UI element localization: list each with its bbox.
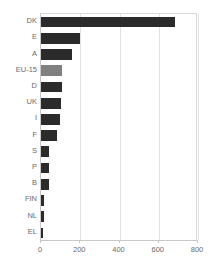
- x-tick-mark: [119, 240, 120, 243]
- y-tick-label: DK: [0, 17, 37, 25]
- y-axis-labels: DKEAEU-15DUKIFSPBFINNLEL: [0, 13, 37, 240]
- y-tick-label: P: [0, 163, 37, 171]
- y-tick-label: E: [0, 33, 37, 41]
- x-tick-mark: [197, 240, 198, 243]
- bar-el: [41, 228, 43, 239]
- y-tick-label: FIN: [0, 195, 37, 203]
- bar-e: [41, 33, 80, 44]
- x-tick-label: 800: [182, 245, 212, 254]
- bar-b: [41, 179, 49, 190]
- y-tick-label: NL: [0, 212, 37, 220]
- y-tick-label: EL: [0, 228, 37, 236]
- bar-f: [41, 130, 57, 141]
- gridline: [198, 14, 199, 240]
- x-tick-mark: [158, 240, 159, 243]
- y-tick-label: UK: [0, 98, 37, 106]
- x-tick-label: 400: [104, 245, 134, 254]
- y-tick-label: A: [0, 50, 37, 58]
- bar-p: [41, 163, 49, 174]
- bar-series: [41, 14, 196, 240]
- chart-title: [55, 0, 185, 4]
- y-tick-label: S: [0, 147, 37, 155]
- bar-chart: DKEAEU-15DUKIFSPBFINNLEL 0200400600800: [0, 0, 213, 265]
- bar-uk: [41, 98, 61, 109]
- y-tick-label: B: [0, 179, 37, 187]
- bar-a: [41, 49, 72, 60]
- bar-nl: [41, 211, 44, 222]
- y-tick-label: F: [0, 131, 37, 139]
- bar-s: [41, 146, 49, 157]
- y-tick-label: D: [0, 82, 37, 90]
- y-tick-label: EU-15: [0, 66, 37, 74]
- bar-i: [41, 114, 60, 125]
- bar-fin: [41, 195, 44, 206]
- x-tick-label: 200: [64, 245, 94, 254]
- x-tick-mark: [40, 240, 41, 243]
- x-tick-label: 0: [25, 245, 55, 254]
- x-tick-mark: [79, 240, 80, 243]
- bar-d: [41, 82, 62, 93]
- plot-area: [40, 13, 197, 240]
- x-tick-label: 600: [143, 245, 173, 254]
- bar-dk: [41, 17, 175, 28]
- y-tick-label: I: [0, 114, 37, 122]
- bar-eu-15: [41, 65, 62, 76]
